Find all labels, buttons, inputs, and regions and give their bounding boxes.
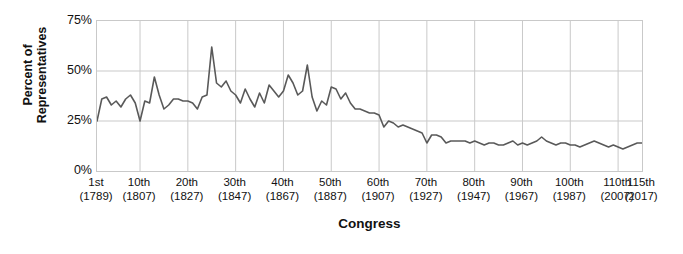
x-tick-congress: 100th (553, 176, 586, 190)
x-axis-tick-40th: 40th(1867) (266, 176, 299, 203)
x-tick-congress: 70th (409, 176, 442, 190)
x-tick-year: (1887) (314, 190, 347, 204)
chart-container: Percent of Representatives 75%50%25%0% 1… (0, 0, 683, 254)
x-tick-congress: 80th (457, 176, 490, 190)
x-tick-congress: 30th (218, 176, 251, 190)
x-axis-tick-50th: 50th(1887) (314, 176, 347, 203)
x-tick-congress: 20th (170, 176, 203, 190)
plot-area (96, 20, 643, 172)
x-axis-tick-90th: 90th(1967) (505, 176, 538, 203)
x-tick-congress: 50th (314, 176, 347, 190)
data-series-line (97, 47, 642, 149)
y-axis-tick-75: 75% (48, 14, 92, 26)
x-tick-congress: 40th (266, 176, 299, 190)
x-tick-year: (2017) (624, 190, 657, 204)
x-tick-congress: 1st (79, 176, 112, 190)
x-axis-tick-20th: 20th(1827) (170, 176, 203, 203)
y-axis-tick-labels: 75%50%25%0% (44, 0, 92, 254)
x-axis-tick-30th: 30th(1847) (218, 176, 251, 203)
x-tick-year: (1947) (457, 190, 490, 204)
x-tick-congress: 115th (624, 176, 657, 190)
x-axis-tick-labels: 1st(1789)10th(1807)20th(1827)30th(1847)4… (0, 176, 683, 210)
x-tick-congress: 10th (122, 176, 155, 190)
x-axis-tick-80th: 80th(1947) (457, 176, 490, 203)
x-tick-year: (1967) (505, 190, 538, 204)
x-tick-year: (1927) (409, 190, 442, 204)
x-axis-tick-1st: 1st(1789) (79, 176, 112, 203)
x-tick-year: (1827) (170, 190, 203, 204)
x-axis-title: Congress (96, 216, 643, 231)
y-axis-tick-25: 25% (48, 114, 92, 126)
x-axis-tick-60th: 60th(1907) (361, 176, 394, 203)
x-tick-year: (1867) (266, 190, 299, 204)
x-axis-tick-100th: 100th(1987) (553, 176, 586, 203)
x-tick-year: (1789) (79, 190, 112, 204)
x-tick-year: (1847) (218, 190, 251, 204)
x-tick-year: (1987) (553, 190, 586, 204)
x-tick-congress: 90th (505, 176, 538, 190)
x-axis-tick-115th: 115th(2017) (624, 176, 657, 203)
x-tick-congress: 60th (361, 176, 394, 190)
x-tick-year: (1907) (361, 190, 394, 204)
line-chart-svg (97, 21, 642, 171)
vertical-gridlines (140, 21, 618, 171)
x-axis-tick-10th: 10th(1807) (122, 176, 155, 203)
y-axis-tick-50: 50% (48, 64, 92, 76)
x-tick-year: (1807) (122, 190, 155, 204)
y-axis-tick-0: 0% (48, 164, 92, 176)
x-axis-tick-70th: 70th(1927) (409, 176, 442, 203)
